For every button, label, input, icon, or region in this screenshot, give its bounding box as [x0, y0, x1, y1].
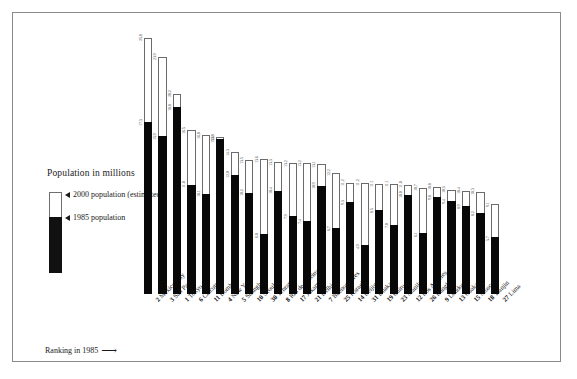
value-label-2000: 23.9: [152, 54, 157, 61]
value-label-1985: 9.4: [441, 199, 446, 204]
bar-1985-population: [144, 122, 152, 294]
value-label-1985: 10.9: [311, 183, 316, 190]
bar-group: 13.510.2: [245, 0, 253, 379]
bar-group: 13.110.9: [317, 0, 325, 379]
value-label-2000: 20.2: [167, 90, 172, 97]
value-label-2000: 11.1: [369, 181, 374, 188]
value-label-1985: 7.4: [297, 219, 302, 224]
bar-1985-population: [419, 233, 427, 294]
bar-group: 16.010.1: [202, 0, 210, 379]
value-label-1985: 6.1: [413, 232, 418, 237]
value-label-2000: 13.5: [239, 157, 244, 164]
bar-1985-population: [433, 197, 441, 294]
bar-1985-population: [332, 228, 340, 294]
value-label-2000: 10.8: [427, 184, 432, 191]
bar-1985-population: [158, 136, 166, 294]
bar-1985-population: [462, 206, 470, 294]
value-label-2000: 10.7: [413, 185, 418, 192]
value-label-2000: 16.0: [196, 132, 201, 139]
bar-group: 9.15.7: [491, 0, 499, 379]
value-label-1985: 8.9: [456, 204, 461, 209]
value-label-2000: 11.0: [398, 182, 403, 189]
value-label-2000: 13.6: [254, 156, 259, 163]
bar-1985-population: [245, 193, 253, 294]
value-label-1985: 6.0: [254, 233, 259, 238]
bar-group: 25.817.3: [144, 0, 152, 379]
value-label-1985: 8.2: [470, 211, 475, 216]
value-label-2000: 13.3: [268, 159, 273, 166]
bar-1985-population: [390, 225, 398, 294]
value-label-2000: 11.2: [340, 180, 345, 187]
plot-area: 25.817.32 Mexico City23.915.93 São Paulo…: [0, 0, 577, 379]
value-label-1985: 15.6: [210, 136, 215, 143]
bar-group: 15.815.6: [216, 0, 224, 379]
bar-1985-population: [303, 221, 311, 294]
bar-1985-population: [202, 194, 210, 294]
bar-group: 12.26.7: [332, 0, 340, 379]
value-label-1985: 6.7: [326, 226, 331, 231]
bar-group: 10.59.4: [447, 0, 455, 379]
value-label-2000: 25.8: [138, 35, 143, 42]
value-label-1985: 7.0: [384, 223, 389, 228]
bar-1985-population: [216, 139, 224, 294]
value-label-2000: 10.5: [441, 187, 446, 194]
value-label-1985: 10.4: [268, 188, 273, 195]
value-label-2000: 12.2: [326, 170, 331, 177]
bar-1985-population: [289, 216, 297, 294]
value-label-1985: 7.9: [283, 214, 288, 219]
bar-1985-population: [173, 107, 181, 294]
value-label-2000: 10.4: [456, 188, 461, 195]
bar-1985-population: [187, 185, 195, 294]
bar-group: 14.312.0: [231, 0, 239, 379]
bar-group: 23.915.9: [158, 0, 166, 379]
value-label-1985: 8.5: [369, 208, 374, 213]
bar-1985-population: [491, 237, 499, 294]
value-label-1985: 10.0: [398, 192, 403, 199]
bar-1985-population: [447, 201, 455, 294]
value-label-2000: 13.2: [283, 160, 288, 167]
bar-1985-population: [375, 210, 383, 294]
bar-group: 20.218.8: [173, 0, 181, 379]
bar-1985-population: [361, 245, 369, 294]
value-label-2000: 11.2: [355, 180, 360, 187]
bar-group: 13.27.4: [303, 0, 311, 379]
bar-group: 16.511.0: [187, 0, 195, 379]
bar-1985-population: [274, 191, 282, 294]
value-label-1985: 10.2: [239, 190, 244, 197]
bar-group: 11.18.5: [375, 0, 383, 379]
value-label-2000: 9.1: [485, 202, 490, 207]
bar-group: 10.76.1: [419, 0, 427, 379]
value-label-2000: 14.3: [225, 149, 230, 156]
value-label-1985: 17.3: [138, 119, 143, 126]
bar-group: 10.89.8: [433, 0, 441, 379]
bar-group: 10.48.9: [462, 0, 470, 379]
bar-1985-population: [404, 195, 412, 294]
value-label-1985: 9.3: [340, 200, 345, 205]
bar-group: 13.66.0: [260, 0, 268, 379]
bar-group: 10.38.2: [476, 0, 484, 379]
value-label-1985: 12.0: [225, 172, 230, 179]
bar-1985-population: [260, 234, 268, 294]
value-label-1985: 18.8: [167, 104, 172, 111]
bar-group: 13.310.4: [274, 0, 282, 379]
bar-1985-population: [476, 213, 484, 294]
bar-group: 11.010.0: [404, 0, 412, 379]
value-label-2000: 16.5: [181, 127, 186, 134]
bar-1985-population: [346, 202, 354, 294]
bar-group: 11.17.0: [390, 0, 398, 379]
value-label-2000: 13.1: [311, 161, 316, 168]
bar-1985-population: [317, 186, 325, 294]
value-label-2000: 11.1: [384, 181, 389, 188]
bar-group: 11.24.9: [361, 0, 369, 379]
value-label-1985: 9.8: [427, 195, 432, 200]
value-label-1985: 11.0: [181, 182, 186, 189]
value-label-2000: 10.3: [470, 189, 475, 196]
value-label-1985: 5.7: [485, 236, 490, 241]
figure: Population in millions 2000 population (…: [0, 0, 577, 379]
value-label-2000: 13.2: [297, 160, 302, 167]
value-label-1985: 15.9: [152, 133, 157, 140]
bar-group: 11.29.3: [346, 0, 354, 379]
value-label-1985: 10.1: [196, 191, 201, 198]
bar-1985-population: [231, 175, 239, 294]
value-label-1985: 4.9: [355, 244, 360, 249]
